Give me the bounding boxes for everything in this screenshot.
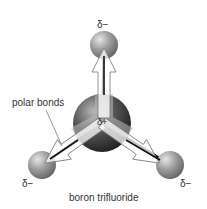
fluorine-atom-right [156, 151, 184, 179]
charge-top: δ− [97, 19, 108, 30]
charge-bottom-right: δ− [180, 178, 191, 189]
charge-center: δ+ [97, 117, 107, 127]
diagram-title: boron trifluoride [69, 192, 138, 203]
polar-bonds-label: polar bonds [12, 97, 64, 108]
callout-leader [46, 110, 62, 146]
charge-bottom-left: δ− [22, 178, 33, 189]
